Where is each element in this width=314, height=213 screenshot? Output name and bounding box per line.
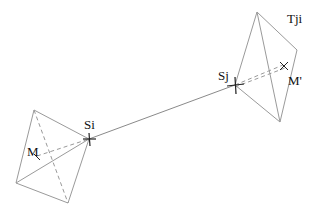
- right-tetrahedron: [235, 12, 297, 122]
- label-m-prime: M': [288, 74, 302, 87]
- label-sj: Sj: [218, 69, 229, 82]
- si-marker-icon: [83, 133, 96, 146]
- sj-marker-icon: [227, 77, 244, 94]
- label-m: M: [27, 145, 39, 158]
- label-tji: Tji: [287, 12, 302, 25]
- connector-line: [89, 85, 235, 139]
- label-si: Si: [84, 118, 95, 131]
- diagram-svg: [0, 0, 314, 213]
- diagram-canvas: Si Sj Tji M M': [0, 0, 314, 213]
